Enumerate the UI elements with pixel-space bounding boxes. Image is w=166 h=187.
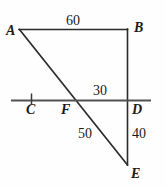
geometry-figure: A B C D E F 60 30 50 40: [0, 0, 166, 187]
point-label-a: A: [6, 24, 15, 38]
segment-ae: [20, 30, 128, 166]
length-label-ab: 60: [66, 14, 80, 28]
point-label-b: B: [134, 21, 143, 35]
length-label-fe: 50: [78, 127, 92, 141]
point-label-f: F: [61, 103, 70, 117]
length-label-de: 40: [132, 127, 146, 141]
length-label-fd: 30: [93, 84, 107, 98]
point-label-c: C: [26, 103, 35, 117]
point-label-d: D: [132, 103, 142, 117]
point-label-e: E: [131, 167, 140, 181]
